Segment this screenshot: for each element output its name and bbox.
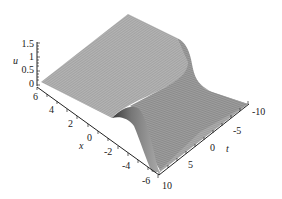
- t-tick-minus-5: -5: [233, 125, 241, 136]
- u-axis-label: u: [13, 55, 18, 66]
- x-tick-2: 2: [68, 118, 73, 129]
- x-tick-4: 4: [49, 104, 54, 115]
- t-tick-5: 5: [188, 159, 193, 170]
- u-tick-1-5: 1.5: [22, 38, 35, 49]
- x-tick-minus-6: -6: [142, 175, 150, 186]
- surface: [41, 14, 248, 172]
- x-axis-label: x: [78, 140, 84, 151]
- u-tick-1: 1: [29, 51, 34, 62]
- x-tick-minus-2: -2: [104, 146, 112, 157]
- u-tick-0: 0: [29, 78, 34, 89]
- u-axis: 1.5 1 0.5 0 u: [13, 38, 40, 89]
- t-tick-10: 10: [162, 180, 172, 191]
- t-tick-0: 0: [210, 142, 215, 153]
- x-tick-minus-4: -4: [122, 160, 130, 171]
- t-tick-minus-10: -10: [252, 106, 265, 117]
- x-tick-0: 0: [87, 132, 92, 143]
- u-tick-0-5: 0.5: [22, 64, 35, 75]
- x-tick-6: 6: [33, 91, 38, 102]
- surface-plot: 1.5 1 0.5 0 u 6 4 2 0 -2 -4 -6 x: [0, 0, 282, 199]
- t-axis-label: t: [226, 143, 229, 154]
